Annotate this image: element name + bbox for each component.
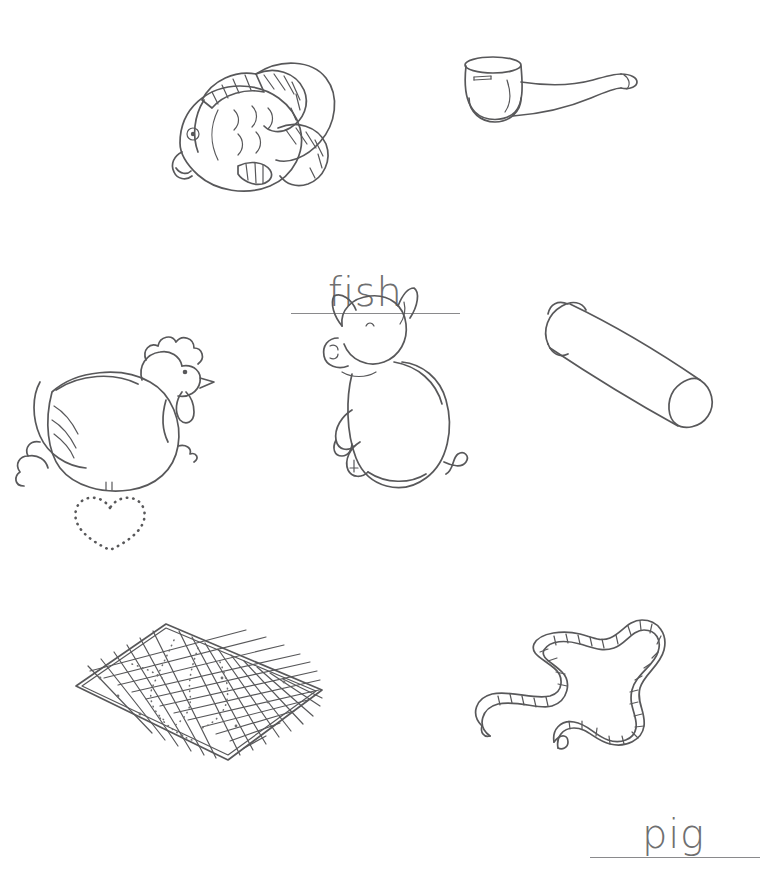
smoking-pipe-illustration — [455, 50, 645, 160]
fish-illustration — [160, 48, 360, 208]
measuring-tape-illustration — [468, 608, 698, 768]
pig-illustration — [290, 282, 490, 512]
grid-map-illustration — [70, 618, 330, 768]
word-label-pig: pig — [642, 814, 705, 854]
hen-illustration — [10, 330, 220, 550]
writing-rule-pig[interactable] — [590, 857, 760, 858]
cylinder-tube-illustration — [530, 292, 730, 442]
worksheet-page: fish — [0, 0, 770, 885]
